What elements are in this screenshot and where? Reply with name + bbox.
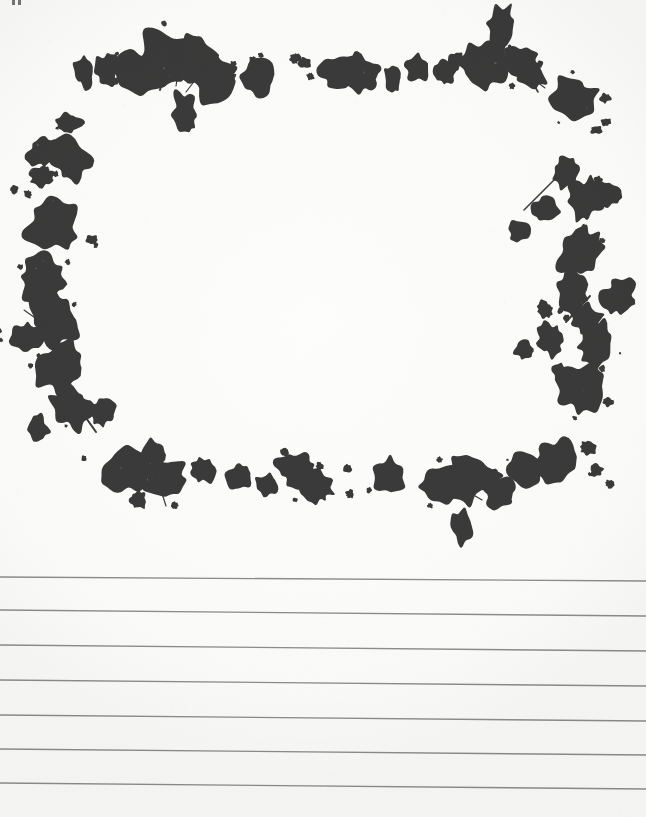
ink-blob-bottom-20 [590, 463, 604, 477]
ink-droplet-bottom-1-1 [81, 455, 86, 461]
ink-blob-bottom-5 [190, 457, 216, 484]
ink-blob-top-24 [601, 118, 611, 126]
ink-droplet-top-11-1 [306, 73, 314, 81]
ink-group-left [0, 112, 117, 442]
ink-blob-bottom-16 [483, 476, 516, 510]
ink-splatter-canvas [0, 0, 646, 560]
ink-droplet-bottom-9-1 [293, 498, 298, 502]
ink-blob-bottom-18 [536, 436, 577, 484]
ink-blob-right-12 [513, 339, 534, 359]
ink-droplet-top-17-3 [509, 83, 516, 90]
ink-blob-bottom-3 [143, 459, 187, 497]
ink-droplet-bottom-13-1 [427, 503, 433, 509]
ruled-line-1 [0, 577, 646, 581]
ink-droplet-bottom-14-1 [436, 456, 443, 463]
ink-droplet-top-3-2 [115, 52, 119, 56]
ink-droplet-top-8-2 [258, 52, 264, 58]
ruled-line-2 [0, 610, 646, 616]
scan-tick-1 [12, 0, 15, 5]
ink-blob-bottom-10 [343, 464, 352, 473]
ruled-line-6 [0, 749, 646, 755]
ink-blob-right-9 [598, 277, 636, 315]
ink-droplet-bottom-3-2 [171, 501, 179, 509]
scan-tick-2 [18, 0, 21, 5]
ruled-line-7 [0, 783, 646, 789]
ink-blob-left-16 [90, 398, 117, 427]
ink-blob-right-6 [555, 224, 605, 273]
ink-droplet-left-14-2 [65, 424, 68, 427]
ink-blob-bottom-15 [450, 508, 473, 548]
ruled-line-4 [0, 680, 646, 686]
ink-blob-left-1 [55, 112, 85, 134]
ink-blob-top-1 [73, 55, 93, 91]
ink-droplet-bottom-17-1 [506, 459, 509, 461]
ink-blob-bottom-21 [605, 480, 615, 489]
ink-blob-left-9 [85, 235, 97, 244]
ruled-line-3 [0, 645, 646, 651]
ink-droplet-top-22-2 [557, 121, 560, 124]
ink-blob-bottom-7 [255, 473, 278, 498]
ink-group-right [508, 156, 636, 421]
ink-droplet-top-22-1 [570, 70, 575, 74]
ink-blob-right-16 [602, 397, 614, 407]
ink-blob-bottom-11 [345, 489, 353, 498]
scan-edge-artifacts [0, 0, 60, 10]
ink-blob-top-14 [404, 53, 428, 82]
ink-group-top [73, 4, 612, 134]
ink-blob-left-6 [24, 190, 32, 199]
ink-blob-top-22 [548, 75, 599, 121]
ink-blob-bottom-12 [373, 455, 406, 492]
ink-blob-top-7 [171, 89, 197, 132]
ink-blob-top-8 [239, 58, 274, 99]
ink-blob-right-10 [537, 299, 553, 319]
ink-droplet-bottom-12-1 [367, 487, 372, 494]
ink-blob-right-11 [536, 320, 564, 359]
ink-droplet-right-14-2 [572, 416, 577, 421]
ruled-line-5 [0, 715, 646, 721]
ink-droplet-left-10-1 [17, 264, 23, 270]
ink-blob-top-13 [384, 66, 401, 93]
ink-droplet-top-4-1 [161, 21, 167, 27]
ruled-lines-canvas [0, 560, 646, 817]
ink-blob-top-25 [590, 126, 602, 134]
ink-blob-bottom-6 [225, 463, 252, 489]
ink-blob-left-5 [10, 185, 18, 195]
ink-blob-left-15 [27, 413, 51, 442]
ink-blob-left-4 [29, 167, 55, 188]
scanned-page [0, 0, 646, 817]
ink-droplet-left-7-2 [65, 259, 71, 266]
ink-droplet-left-2-3 [55, 127, 58, 130]
ink-droplet-left-12-3 [0, 328, 2, 335]
ink-blob-bottom-19 [580, 441, 597, 456]
ink-blob-top-6 [190, 53, 238, 105]
ruled-lines-area [0, 560, 646, 817]
ink-droplet-left-13-2 [28, 363, 33, 368]
ink-splatter-border [0, 0, 646, 560]
ink-droplet-left-12-2 [0, 338, 3, 343]
ink-blob-left-3 [47, 134, 94, 185]
ink-splash-group [24, 46, 590, 506]
ink-blob-right-4 [508, 220, 531, 242]
ink-droplet-left-11-1 [72, 302, 77, 307]
ink-blob-left-7 [21, 196, 77, 250]
ink-blob-bottom-4 [129, 488, 146, 509]
ink-blob-top-23 [599, 93, 612, 104]
ink-droplet-right-13-2 [619, 352, 621, 354]
